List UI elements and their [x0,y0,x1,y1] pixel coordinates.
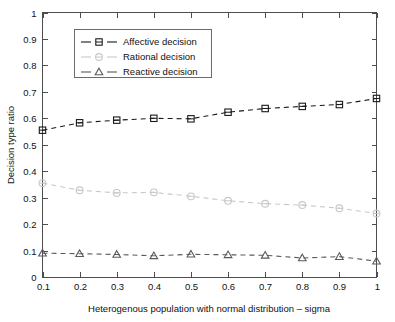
x-tick-label: 0.8 [296,281,309,292]
y-tick-label: 0.1 [23,246,36,257]
data-point-marker [225,197,232,204]
data-point-marker [299,103,305,109]
y-tick-label: 0.2 [23,219,36,230]
x-tick-label: 0.7 [259,281,272,292]
data-point-marker [188,116,194,122]
y-axis-tick-labels: 00.10.20.30.40.50.60.70.80.91 [23,8,36,283]
x-tick-label: 0.3 [111,281,124,292]
series-layer [39,95,381,264]
data-point-marker [262,200,269,207]
x-tick-label: 1 [375,281,380,292]
series-line [43,253,377,261]
data-point-marker [299,202,306,209]
chart-figure: 00.10.20.30.40.50.60.70.80.91 0.10.20.30… [0,0,395,322]
decision-type-ratio-line-chart: 00.10.20.30.40.50.60.70.80.91 0.10.20.30… [0,0,395,322]
x-tick-label: 0.2 [74,281,87,292]
y-axis-title: Decision type ratio [5,106,16,184]
data-point-marker [336,205,343,212]
data-point-marker [336,101,342,107]
series-line [43,183,377,213]
legend-label: Affective decision [123,36,197,47]
x-tick-label: 0.5 [185,281,198,292]
x-axis-tick-labels: 0.10.20.30.40.50.60.70.80.91 [37,281,380,292]
data-point-marker [76,187,83,194]
series-affective-decision [39,95,379,133]
y-tick-label: 0.3 [23,193,36,204]
legend-label: Rational decision [123,51,195,62]
y-tick-label: 1 [31,8,36,19]
series-rational-decision [39,180,380,217]
data-point-marker [151,115,157,121]
data-point-marker [225,109,231,115]
data-point-marker [188,193,195,200]
data-point-marker [76,120,82,126]
data-point-marker [150,189,157,196]
y-tick-label: 0.5 [23,140,36,151]
x-tick-label: 0.4 [148,281,161,292]
series-reactive-decision [39,249,381,264]
x-axis-title: Heterogenous population with normal dist… [88,303,331,314]
legend-label: Reactive decision [123,66,197,77]
y-tick-label: 0.8 [23,60,36,71]
series-line [43,99,377,131]
x-tick-label: 0.1 [37,281,50,292]
y-tick-label: 0.7 [23,87,36,98]
data-point-marker [114,117,120,123]
chart-legend: Affective decisionRational decisionReact… [75,30,212,78]
x-tick-label: 0.9 [333,281,346,292]
y-tick-label: 0.9 [23,34,36,45]
data-point-marker [262,105,268,111]
x-tick-label: 0.6 [222,281,235,292]
y-tick-label: 0.6 [23,113,36,124]
y-tick-label: 0.4 [23,166,36,177]
data-point-marker [113,189,120,196]
y-tick-label: 0 [31,272,36,283]
